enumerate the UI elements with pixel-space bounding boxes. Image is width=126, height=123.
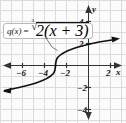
x-tick-label--4: −4 <box>38 69 48 78</box>
cube-root-radical: 3 √ 2(x + 3) <box>32 22 89 40</box>
y-tick-label--4: −4 <box>77 106 87 115</box>
y-tick-label-2: 2 <box>79 40 84 49</box>
equation-function-name: q(x) <box>7 27 22 36</box>
radicand: 2(x + 3) <box>36 22 89 40</box>
equation-equals: = <box>24 27 29 36</box>
grid-lines <box>0 0 126 123</box>
x-tick-label--6: −6 <box>16 69 26 78</box>
x-tick-label-2: 2 <box>106 69 111 78</box>
y-axis-label: y <box>92 5 96 14</box>
graph-figure: −6 −4 −2 2 4 2 −2 −4 y x q(x) = 3 √ 2(x … <box>0 0 126 123</box>
equation-callout: q(x) = 3 √ 2(x + 3) <box>3 23 93 39</box>
x-tick-label--2: −2 <box>60 69 70 78</box>
graph-svg <box>0 0 126 123</box>
x-axis-label: x <box>116 68 121 77</box>
y-tick-label--2: −2 <box>77 84 87 93</box>
radical-index: 3 <box>32 18 35 23</box>
